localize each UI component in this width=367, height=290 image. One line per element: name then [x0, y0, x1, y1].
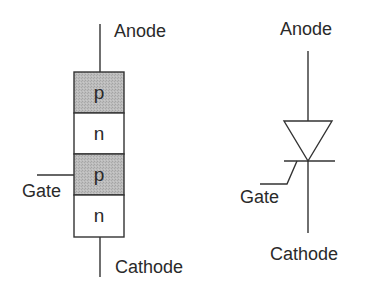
cathode-label: Cathode — [115, 257, 183, 277]
symbol-cathode-label: Cathode — [270, 244, 338, 264]
thyristor-diagram: Anode p n p n Gate Cathode Anode Gate Ca… — [0, 0, 367, 290]
symbol-gate-lead — [260, 161, 297, 184]
layer-p1-label: p — [94, 82, 105, 103]
layer-n1-label: n — [94, 123, 105, 144]
diode-triangle-icon — [284, 121, 332, 161]
symbol-gate-label: Gate — [240, 187, 279, 207]
symbol-anode-label: Anode — [280, 19, 332, 39]
layer-p2-label: p — [94, 164, 105, 185]
layer-n2-label: n — [94, 205, 105, 226]
layer-structure: Anode p n p n Gate Cathode — [22, 21, 183, 277]
anode-label: Anode — [114, 21, 166, 41]
gate-label: Gate — [22, 181, 61, 201]
circuit-symbol: Anode Gate Cathode — [240, 19, 338, 264]
